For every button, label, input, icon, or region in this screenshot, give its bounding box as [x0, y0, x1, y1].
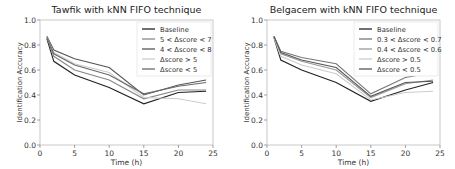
legend-label: Δscore < 0.5	[377, 66, 421, 74]
y-tick-label: 0.0	[251, 141, 263, 150]
chart-tawfik: Tawfik with kNN FIFO technique0510152025…	[0, 0, 228, 169]
y-tick-label: 0.6	[251, 66, 263, 75]
x-tick-label: 0	[265, 149, 270, 158]
y-axis-label: Identification Accuracy	[16, 42, 24, 122]
y-tick-label: 0.8	[251, 41, 263, 50]
legend-label: 0.3 < Δscore < 0.7	[377, 36, 442, 44]
y-tick-label: 1.0	[251, 16, 263, 25]
x-tick-label: 25	[208, 149, 218, 158]
x-tick-label: 20	[174, 149, 184, 158]
x-tick-label: 15	[366, 149, 376, 158]
legend-label: Δscore > 5	[160, 56, 197, 64]
y-tick-label: 0.2	[251, 116, 263, 125]
legend-label: 4 < Δscore < 8	[160, 46, 212, 54]
chart-belgacem: Belgacem with kNN FIFO technique05101520…	[227, 0, 455, 169]
y-tick-label: 0.4	[24, 91, 36, 100]
legend-label: 0.4 < Δscore < 0.6	[377, 46, 442, 54]
legend-label: Baseline	[160, 26, 189, 34]
x-tick-label: 0	[38, 149, 43, 158]
y-tick-label: 0.0	[24, 141, 36, 150]
x-tick-label: 20	[401, 149, 411, 158]
chart-title: Belgacem with kNN FIFO technique	[270, 4, 438, 15]
y-tick-label: 0.8	[24, 41, 36, 50]
x-tick-label: 10	[331, 149, 341, 158]
chart-title: Tawfik with kNN FIFO technique	[51, 4, 202, 15]
x-tick-label: 5	[72, 149, 77, 158]
x-tick-label: 10	[104, 149, 114, 158]
y-tick-label: 1.0	[24, 16, 36, 25]
y-tick-label: 0.4	[251, 91, 263, 100]
y-axis-label: Identification Accuracy	[243, 42, 251, 122]
figure: Tawfik with kNN FIFO technique0510152025…	[0, 0, 455, 169]
y-tick-label: 0.6	[24, 66, 36, 75]
legend-label: Δscore > 0.5	[377, 56, 421, 64]
legend-label: Baseline	[377, 26, 406, 34]
x-axis-label: Time (h)	[337, 158, 369, 167]
x-axis-label: Time (h)	[110, 158, 142, 167]
x-tick-label: 5	[299, 149, 304, 158]
x-tick-label: 25	[435, 149, 445, 158]
legend-label: 5 < Δscore < 7	[160, 36, 212, 44]
legend-label: Δscore < 5	[160, 66, 197, 74]
x-tick-label: 15	[139, 149, 149, 158]
y-tick-label: 0.2	[24, 116, 36, 125]
